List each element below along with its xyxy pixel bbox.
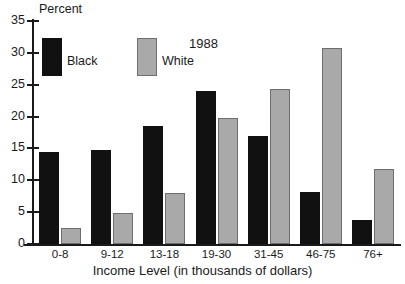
x-axis-tick-label: 13-18 [138, 248, 190, 260]
y-axis-tick-label: 5 [1, 205, 25, 218]
bar-white-19-30 [218, 118, 238, 244]
bar-black-13-18 [143, 126, 163, 245]
x-axis-tick-label: 76+ [347, 248, 399, 260]
x-axis-line [24, 244, 401, 246]
y-axis-tick-label: 35 [1, 14, 25, 27]
y-axis-tick-label: 25 [1, 78, 25, 91]
bar-white-0-8 [61, 228, 81, 244]
bar-black-19-30 [196, 91, 216, 244]
y-axis-title: Percent [39, 2, 82, 16]
bar-chart: Percent 1988 05101520253035 BlackWhite 0… [0, 0, 405, 284]
bar-black-0-8 [39, 152, 59, 244]
bar-black-46-75 [300, 192, 320, 244]
y-axis-tick-label: 10 [1, 173, 25, 186]
bar-white-13-18 [165, 193, 185, 244]
bar-black-9-12 [91, 150, 111, 244]
y-axis-tick-label: 15 [1, 141, 25, 154]
bar-white-46-75 [322, 48, 342, 244]
bar-white-31-45 [270, 89, 290, 244]
plot-area [34, 21, 401, 244]
x-axis-tick-label: 9-12 [86, 248, 138, 260]
x-axis-title: Income Level (in thousands of dollars) [0, 263, 405, 278]
y-axis-tick-label: 0 [1, 237, 25, 250]
bar-white-76+ [374, 169, 394, 244]
bar-white-9-12 [113, 213, 133, 244]
x-axis-tick-label: 31-45 [243, 248, 295, 260]
x-axis-tick-label: 0-8 [34, 248, 86, 260]
x-axis-tick-label: 19-30 [190, 248, 242, 260]
y-axis-tick-label: 30 [1, 46, 25, 59]
bar-black-31-45 [248, 136, 268, 244]
y-axis-tick-label: 20 [1, 110, 25, 123]
x-axis-tick-label: 46-75 [295, 248, 347, 260]
bar-black-76+ [352, 220, 372, 244]
